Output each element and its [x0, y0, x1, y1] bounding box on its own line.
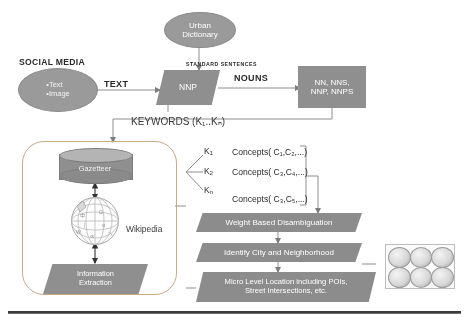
svg-text:W: W — [76, 229, 81, 235]
weight-based-disambiguation-label: Weight Based Disambiguation — [225, 218, 332, 227]
identify-city-and-neighborhood-label: Identify City and Neighborhood — [224, 248, 334, 257]
svg-text:中: 中 — [80, 212, 85, 219]
urban-dictionary-line-1: Urban — [189, 21, 211, 30]
collage-thumb-5 — [410, 267, 433, 288]
weight-based-disambiguation-node: Weight Based Disambiguation — [196, 213, 362, 232]
globe-svg: 中 Ω أ א क W — [66, 196, 124, 246]
social-media-source: •Text •Image — [18, 68, 98, 112]
edge-label-text: TEXT — [104, 79, 128, 89]
nnp-label: NNP — [179, 83, 197, 93]
urban-dictionary-node: Urban Dictionary — [164, 12, 236, 48]
pos-tags-node: NN, NNS, NNP, NNPS — [298, 66, 366, 108]
wikipedia-label: Wikipedia — [126, 224, 162, 234]
micro-level-line-2: Street Intersections, etc. — [245, 286, 327, 295]
concepts-row-n: Concepts( C₃,C₅,...) — [232, 194, 308, 204]
concepts-row-1: Concepts( C₁,C₂,...) — [232, 147, 307, 157]
svg-text:Ω: Ω — [99, 209, 103, 215]
edge-label-nouns: NOUNS — [234, 73, 268, 83]
footer-rule — [8, 311, 461, 314]
keyword-1-sub: 1 — [210, 149, 213, 156]
information-extraction-line-2: Extraction — [79, 278, 112, 287]
svg-text:क: क — [90, 233, 94, 239]
identify-city-and-neighborhood-node: Identify City and Neighborhood — [196, 243, 362, 262]
information-extraction-node: Information Extraction — [43, 264, 148, 294]
edge-label-standard-sentences: STANDARD SENTENCES — [186, 61, 257, 67]
keyword-2-sub: 2 — [210, 169, 213, 176]
social-media-items: •Text •Image — [46, 81, 69, 98]
urban-dictionary-line-2: Dictionary — [182, 30, 218, 39]
result-thumbnail-collage — [385, 244, 455, 289]
nnp-node: NNP — [156, 70, 220, 105]
keyword-n-label: Kn — [204, 185, 213, 195]
collage-thumb-3 — [431, 247, 454, 268]
micro-level-line-1: Micro Level Location including POIs, — [225, 277, 348, 286]
social-media-label: SOCIAL MEDIA — [19, 57, 85, 67]
keyword-2-label: K2 — [204, 166, 213, 176]
wikipedia-globe-icon: 中 Ω أ א क W — [66, 196, 124, 246]
pos-tags-label: NN, NNS, NNP, NNPS — [311, 78, 354, 96]
collage-thumb-6 — [431, 267, 454, 288]
pos-tags-line-2: NNP, NNPS — [311, 87, 354, 96]
collage-thumb-4 — [388, 267, 411, 288]
keyword-n-sub: n — [210, 188, 213, 195]
keyword-1-label: K1 — [204, 146, 213, 156]
concepts-row-2: Concepts( C₃,C₄,...) — [232, 167, 308, 177]
diagram-canvas: SOCIAL MEDIA •Text •Image TEXT Urban Dic… — [0, 0, 469, 324]
micro-level-location-node: Micro Level Location including POIs, Str… — [196, 272, 376, 302]
collage-thumb-1 — [388, 247, 411, 268]
social-media-item-image: •Image — [46, 89, 69, 98]
collage-thumb-2 — [410, 247, 433, 268]
gazetteer-node: Gazetteer — [59, 148, 131, 184]
edge-label-keywords: KEYWORDS (K₁..Kₙ) — [131, 116, 225, 127]
information-extraction-label: Information Extraction — [77, 270, 114, 287]
micro-level-location-label: Micro Level Location including POIs, Str… — [225, 278, 348, 295]
urban-dictionary-label: Urban Dictionary — [182, 21, 218, 39]
gazetteer-label: Gazetteer — [79, 165, 111, 174]
pos-tags-line-1: NN, NNS, — [314, 78, 349, 87]
